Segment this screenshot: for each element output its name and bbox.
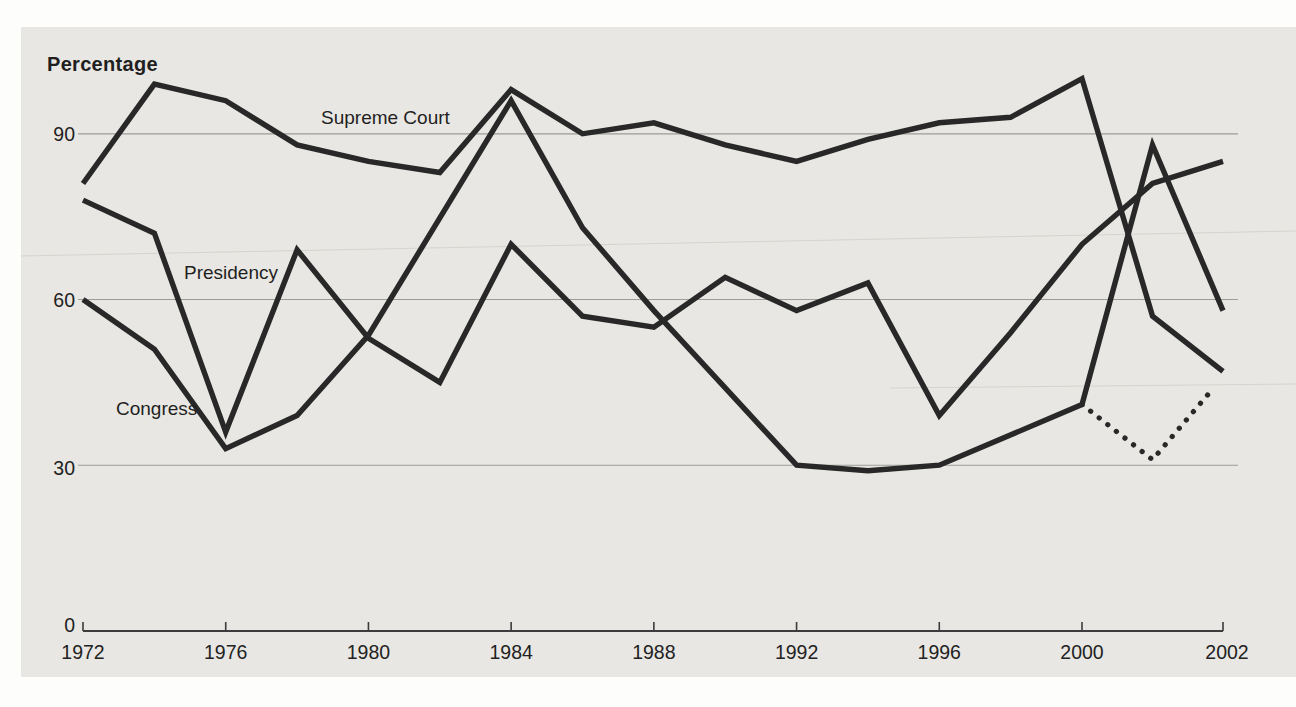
y-tick-label-30: 30 — [53, 457, 75, 479]
x-tick-label-1988: 1988 — [632, 641, 675, 663]
x-tick-label-1976: 1976 — [204, 641, 247, 663]
x-tick-label-1992: 1992 — [775, 641, 818, 663]
scan-artifact-line — [21, 231, 1296, 256]
confidence-line-chart: 1972197619801984198819921996200020029060… — [0, 0, 1296, 707]
series-label-congress: Congress — [116, 398, 197, 420]
x-tick-label-1984: 1984 — [489, 641, 533, 663]
series-line-presidency — [83, 161, 1223, 432]
x-tick-label-1996: 1996 — [918, 641, 961, 663]
y-tick-label-0: 0 — [64, 614, 75, 636]
series-label-supreme-court: Supreme Court — [321, 107, 450, 129]
y-axis-title: Percentage — [47, 53, 158, 76]
scan-artifact-line — [890, 384, 1296, 388]
series-line-congress-dotted-branch — [1082, 392, 1210, 460]
x-tick-label-1980: 1980 — [347, 641, 391, 663]
x-tick-label-1972: 1972 — [61, 641, 104, 663]
series-label-presidency: Presidency — [184, 262, 278, 284]
y-tick-label-60: 60 — [53, 289, 75, 311]
y-tick-label-90: 90 — [53, 123, 75, 145]
x-tick-label-2002: 2002 — [1205, 641, 1248, 663]
x-tick-label-2000: 2000 — [1060, 641, 1104, 663]
scanned-page: 1972197619801984198819921996200020029060… — [0, 0, 1296, 707]
